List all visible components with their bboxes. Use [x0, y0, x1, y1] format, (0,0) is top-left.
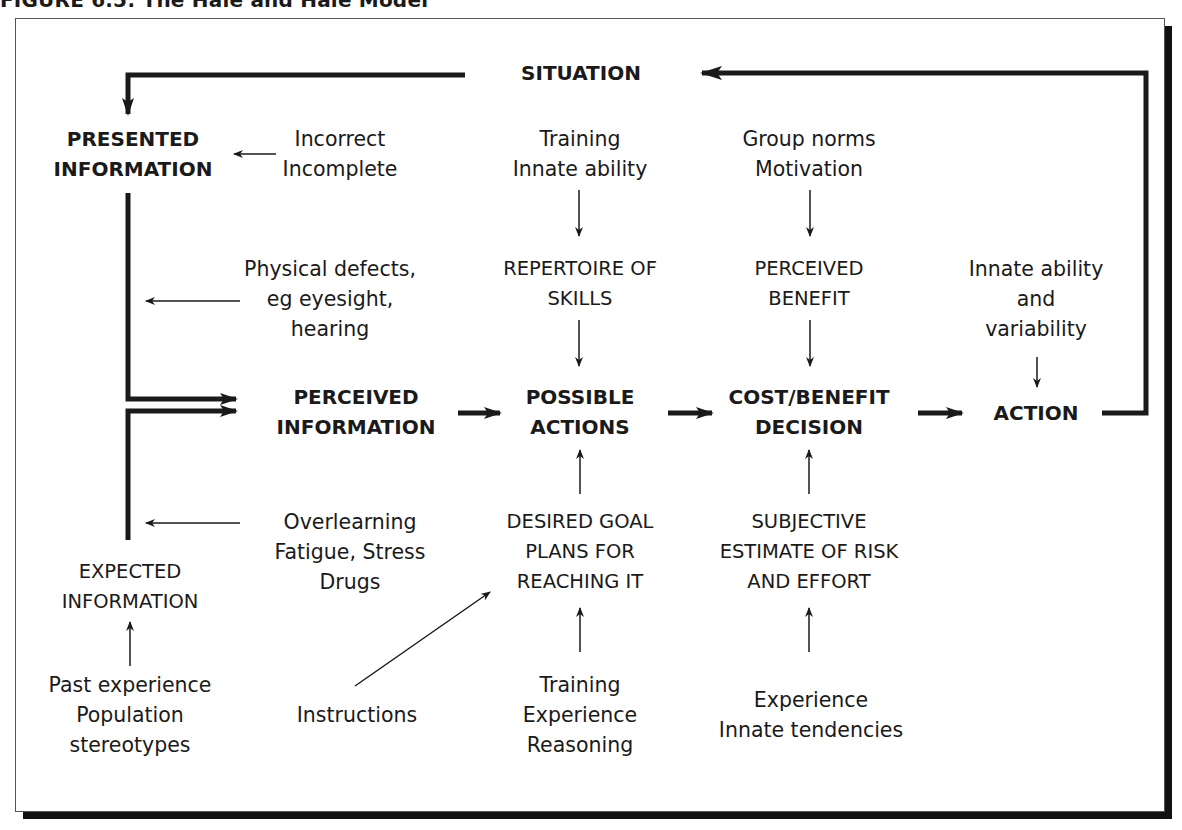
- node-possible-actions: POSSIBLE ACTIONS: [526, 382, 635, 442]
- node-repertoire-of-skills: REPERTOIRE OF SKILLS: [503, 254, 657, 314]
- influence-past-experience: Past experience Population stereotypes: [49, 670, 212, 760]
- node-desired-goal: DESIRED GOAL PLANS FOR REACHING IT: [507, 507, 654, 597]
- instructions-to-goal-arrow: [355, 592, 490, 686]
- presented-to-perceived-arrow: [128, 193, 236, 399]
- node-action: ACTION: [994, 398, 1079, 428]
- influence-group-norms: Group norms Motivation: [742, 124, 875, 184]
- influence-training-innate: Training Innate ability: [513, 124, 648, 184]
- influence-physical-defects: Physical defects, eg eyesight, hearing: [244, 254, 416, 344]
- influence-incorrect-incomplete: Incorrect Incomplete: [283, 124, 398, 184]
- node-expected-information: EXPECTED INFORMATION: [62, 557, 199, 617]
- expected-to-perceived-arrow: [128, 411, 236, 540]
- influence-experience-innate-tendencies: Experience Innate tendencies: [719, 685, 903, 745]
- node-perceived-benefit: PERCEIVED BENEFIT: [754, 254, 863, 314]
- influence-overlearning: Overlearning Fatigue, Stress Drugs: [275, 507, 426, 597]
- influence-instructions: Instructions: [297, 700, 417, 730]
- situation-to-presented-arrow: [128, 75, 465, 114]
- node-presented-information: PRESENTED INFORMATION: [54, 124, 213, 184]
- node-perceived-information: PERCEIVED INFORMATION: [277, 382, 436, 442]
- influence-innate-variability: Innate ability and variability: [969, 254, 1104, 344]
- node-subjective-estimate: SUBJECTIVE ESTIMATE OF RISK AND EFFORT: [720, 507, 899, 597]
- node-situation: SITUATION: [521, 58, 641, 88]
- node-cost-benefit-decision: COST/BENEFIT DECISION: [728, 382, 889, 442]
- influence-training-experience-reasoning: Training Experience Reasoning: [523, 670, 637, 760]
